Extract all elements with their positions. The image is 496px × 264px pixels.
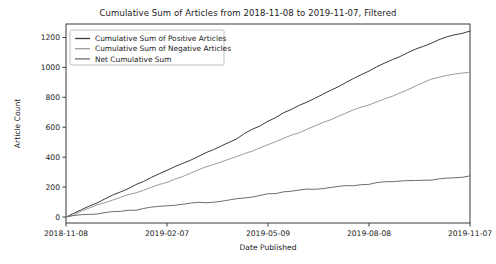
- series-line-1: [66, 72, 470, 217]
- legend-label-0: Cumulative Sum of Positive Articles: [95, 34, 226, 43]
- x-tick-label: 2019-05-09: [246, 229, 290, 238]
- x-tick-label: 2019-11-07: [448, 229, 492, 238]
- line-chart-plot: 0200400600800100012002018-11-082019-02-0…: [0, 0, 496, 264]
- x-tick-label: 2018-11-08: [44, 229, 88, 238]
- y-tick-label: 1200: [41, 33, 60, 42]
- x-tick-label: 2019-08-08: [347, 229, 391, 238]
- legend-label-2: Net Cumulative Sum: [95, 55, 171, 64]
- y-tick-label: 400: [46, 153, 61, 162]
- y-tick-label: 1000: [41, 63, 60, 72]
- y-tick-label: 800: [46, 93, 61, 102]
- y-tick-label: 0: [55, 213, 60, 222]
- x-axis-label: Date Published: [239, 243, 296, 252]
- legend-label-1: Cumulative Sum of Negative Articles: [95, 44, 231, 53]
- x-tick-label: 2019-02-07: [145, 229, 189, 238]
- y-tick-label: 600: [46, 123, 61, 132]
- chart-figure: Cumulative Sum of Articles from 2018-11-…: [0, 0, 496, 264]
- y-axis-label: Article Count: [13, 99, 22, 148]
- series-line-2: [66, 176, 470, 217]
- y-tick-label: 200: [46, 183, 61, 192]
